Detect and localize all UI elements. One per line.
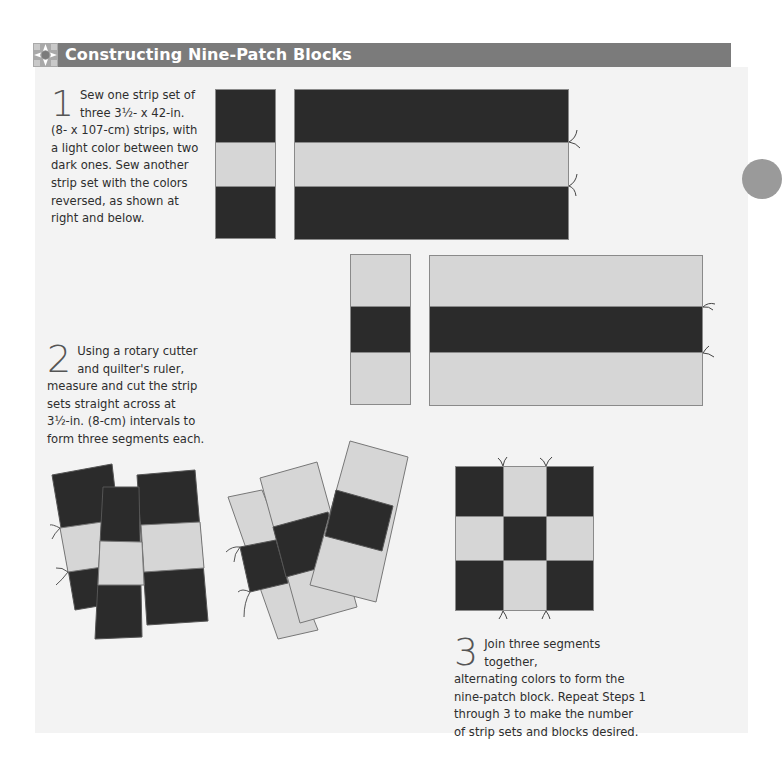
step-number: 2 xyxy=(47,344,71,374)
section-header-bar: Constructing Nine-Patch Blocks xyxy=(33,43,731,67)
seam-thread-icon xyxy=(495,456,555,621)
step-line: reversed, as shown at xyxy=(51,194,179,208)
step-2: 2 Using a rotary cutter and quilter's ru… xyxy=(47,343,217,449)
step-line: dark ones. Sew another xyxy=(51,158,189,172)
chapter-tab-marker xyxy=(742,159,782,199)
step-number: 1 xyxy=(51,88,74,120)
step-line: a light color between two xyxy=(51,141,198,155)
step-line: nine-patch block. Repeat Steps 1 xyxy=(454,690,646,704)
nine-patch-star-icon xyxy=(33,43,58,67)
step-line: 3½-in. (8-cm) intervals to xyxy=(47,414,195,428)
step-number: 3 xyxy=(454,637,478,667)
step-line: measure and cut the strip xyxy=(47,379,197,393)
step-line: alternating colors to form the xyxy=(454,672,625,686)
page-title: Constructing Nine-Patch Blocks xyxy=(65,44,352,66)
cut-segments-light-dark-light xyxy=(220,430,420,640)
step-1: 1 Sew one strip set of three 3½- x 42-in… xyxy=(51,87,211,228)
step-line: through 3 to make the number xyxy=(454,707,633,721)
step-line: Sew one strip set of xyxy=(80,88,195,102)
step-line: Join three segments together, xyxy=(484,637,600,669)
seam-thread-icon xyxy=(566,130,586,200)
step-line: three 3½- x 42-in. xyxy=(80,106,185,120)
step-line: sets straight across at xyxy=(47,397,176,411)
star-glyph xyxy=(33,43,58,67)
step-line: and quilter's ruler, xyxy=(77,362,184,376)
step-line: right and below. xyxy=(51,211,144,225)
step-line: Using a rotary cutter xyxy=(77,344,197,358)
step-line: form three segments each. xyxy=(47,432,204,446)
seam-thread-icon xyxy=(700,300,720,360)
step-line: of strip sets and blocks desired. xyxy=(454,725,638,739)
cut-segments-dark-light-dark xyxy=(40,455,220,645)
step-line: (8- x 107-cm) strips, with xyxy=(51,123,197,137)
step-line: strip set with the colors xyxy=(51,176,188,190)
step-3: 3 Join three segments together, alternat… xyxy=(454,636,654,742)
